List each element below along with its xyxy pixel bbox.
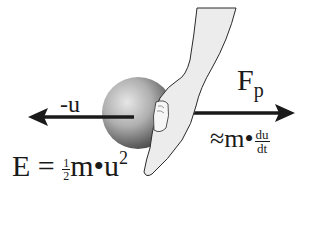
velocity-label: -u [60,92,80,116]
energy-exponent: 2 [119,148,128,168]
force-approximation: ≈m•dudt [210,126,270,155]
derivative-numerator: du [255,128,270,142]
approx-prefix: ≈m• [210,124,254,153]
energy-rhs: m•u [70,149,119,182]
force-label: Fp [237,65,264,100]
kinetic-energy-formula: E = 12m•u2 [12,149,128,182]
force-subscript: p [254,79,264,101]
right-arrow-force [190,104,295,122]
energy-lhs: E = [12,149,62,182]
force-symbol: F [237,63,254,96]
derivative-fraction: dudt [255,128,270,155]
derivative-denominator: dt [255,142,270,155]
